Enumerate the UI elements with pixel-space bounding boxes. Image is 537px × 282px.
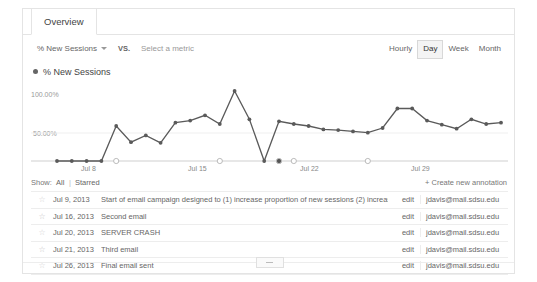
data-point[interactable]: [470, 117, 474, 121]
show-label: Show:: [31, 178, 52, 187]
filter-all[interactable]: All: [56, 178, 64, 187]
granularity-day[interactable]: Day: [417, 40, 443, 59]
chevron-down-icon: [101, 47, 107, 50]
granularity-week[interactable]: Week: [443, 40, 473, 57]
star-outline-icon[interactable]: ☆: [38, 196, 45, 204]
granularity-hourly[interactable]: Hourly: [384, 40, 417, 57]
data-point[interactable]: [248, 117, 252, 121]
chart-area: 100.00% 50.00% Jul 8 Jul 15 Jul 22 Jul 2…: [23, 81, 516, 179]
data-point[interactable]: [55, 159, 59, 163]
star-cell[interactable]: ☆: [31, 228, 53, 237]
annotation-author-email: jdavis@mail.sdsu.edu: [420, 212, 508, 221]
annotation-text: SERVER CRASH: [101, 228, 388, 237]
annotation-filter-row: Show: All | Starred + Create new annotat…: [23, 177, 514, 190]
data-point[interactable]: [144, 134, 148, 138]
star-cell[interactable]: ☆: [31, 245, 53, 254]
tab-overview-label: Overview: [44, 16, 84, 27]
edit-link[interactable]: edit: [388, 245, 420, 254]
annotation-author-email: jdavis@mail.sdsu.edu: [420, 195, 508, 204]
data-point[interactable]: [396, 107, 400, 111]
data-point[interactable]: [484, 122, 488, 126]
create-annotation-link[interactable]: + Create new annotation: [425, 178, 507, 187]
data-point[interactable]: [440, 123, 444, 127]
chart-legend: % New Sessions: [33, 67, 111, 77]
data-point[interactable]: [174, 121, 178, 125]
data-point[interactable]: [159, 141, 163, 145]
overview-panel: Overview % New Sessions VS. Select a met…: [22, 8, 515, 274]
granularity-month[interactable]: Month: [474, 40, 506, 57]
data-point[interactable]: [100, 159, 104, 163]
data-point[interactable]: [233, 89, 237, 93]
metric-selector-row: % New Sessions VS. Select a metric Hourl…: [23, 35, 514, 63]
collapse-handle-icon[interactable]: [256, 257, 284, 268]
tab-strip: Overview: [23, 9, 514, 35]
series-dot-icon: [33, 69, 38, 74]
data-point[interactable]: [277, 119, 281, 123]
table-row[interactable]: ☆Jul 21, 2013Third emaileditjdavis@mail.…: [31, 242, 508, 259]
table-row[interactable]: ☆Jul 16, 2013Second emaileditjdavis@mail…: [31, 209, 508, 226]
annotation-date: Jul 9, 2013: [53, 195, 101, 204]
line-chart-svg: [23, 81, 516, 179]
series-line: [57, 91, 501, 161]
data-point[interactable]: [366, 131, 370, 135]
data-point[interactable]: [292, 122, 296, 126]
annotation-date: Jul 20, 2013: [53, 228, 101, 237]
star-outline-icon[interactable]: ☆: [38, 262, 45, 270]
data-point[interactable]: [322, 128, 326, 132]
data-point[interactable]: [218, 122, 222, 126]
legend-label: % New Sessions: [43, 67, 111, 77]
annotation-marker-icon[interactable]: [291, 158, 296, 163]
annotation-date: Jul 16, 2013: [53, 212, 101, 221]
data-point[interactable]: [425, 119, 429, 123]
annotation-date: Jul 21, 2013: [53, 245, 101, 254]
tab-overview[interactable]: Overview: [31, 9, 97, 35]
primary-metric-label: % New Sessions: [37, 44, 97, 53]
annotation-author-email: jdavis@mail.sdsu.edu: [420, 228, 508, 237]
data-point[interactable]: [307, 124, 311, 128]
star-outline-icon[interactable]: ☆: [38, 229, 45, 237]
annotation-text: Third email: [101, 245, 388, 254]
edit-link[interactable]: edit: [388, 195, 420, 204]
granularity-button-group: HourlyDayWeekMonth: [384, 40, 506, 57]
data-point[interactable]: [499, 121, 503, 125]
annotation-marker-icon[interactable]: [217, 158, 222, 163]
data-point[interactable]: [70, 159, 74, 163]
secondary-metric-dropdown[interactable]: Select a metric: [141, 41, 194, 57]
data-point[interactable]: [455, 127, 459, 131]
data-point[interactable]: [262, 159, 266, 163]
series-layer: [55, 89, 503, 163]
data-point[interactable]: [129, 140, 133, 144]
data-point[interactable]: [410, 107, 414, 111]
filter-separator: |: [69, 178, 71, 187]
primary-metric-dropdown[interactable]: % New Sessions: [33, 41, 111, 57]
data-point[interactable]: [336, 128, 340, 132]
annotation-marker-icon[interactable]: [365, 158, 370, 163]
filter-starred[interactable]: Starred: [75, 178, 100, 187]
edit-link[interactable]: edit: [388, 228, 420, 237]
annotation-text: Start of email campaign designed to (1) …: [101, 195, 388, 204]
table-row[interactable]: ☆Jul 9, 2013Start of email campaign desi…: [31, 192, 508, 209]
annotation-text: Second email: [101, 212, 388, 221]
edit-link[interactable]: edit: [388, 212, 420, 221]
data-point[interactable]: [351, 130, 355, 134]
data-point[interactable]: [114, 124, 118, 128]
data-point[interactable]: [188, 119, 192, 123]
table-row[interactable]: ☆Jul 20, 2013SERVER CRASHeditjdavis@mail…: [31, 225, 508, 242]
star-outline-icon[interactable]: ☆: [38, 213, 45, 221]
annotation-author-email: jdavis@mail.sdsu.edu: [420, 245, 508, 254]
star-cell[interactable]: ☆: [31, 212, 53, 221]
data-point[interactable]: [203, 113, 207, 117]
data-point[interactable]: [85, 159, 89, 163]
star-cell[interactable]: ☆: [31, 195, 53, 204]
annotation-marker-icon[interactable]: [114, 158, 119, 163]
annotation-marker-icon[interactable]: [276, 158, 281, 163]
data-point[interactable]: [381, 126, 385, 130]
star-outline-icon[interactable]: ☆: [38, 246, 45, 254]
vs-label: VS.: [118, 41, 130, 57]
